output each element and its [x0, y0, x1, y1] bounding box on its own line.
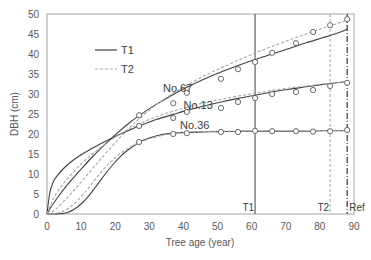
observed-point-no67	[328, 23, 333, 28]
observed-point-no36	[218, 129, 223, 134]
observed-point-no36	[310, 129, 315, 134]
x-tick-label: 70	[280, 221, 292, 232]
observed-point-no67	[310, 29, 315, 34]
axes	[47, 14, 354, 214]
vline-label-ref: Ref	[349, 202, 365, 213]
observed-point-no13	[252, 95, 257, 100]
model-curves	[47, 20, 347, 214]
observed-point-no13	[171, 115, 176, 120]
observed-point-no13	[218, 105, 223, 110]
observed-point-no67	[218, 76, 223, 81]
observed-point-no36	[137, 139, 142, 144]
y-tick-label: 30	[28, 89, 40, 100]
vline-label-t1: T1	[242, 202, 254, 213]
y-tick-label: 25	[28, 109, 40, 120]
observed-point-no36	[252, 128, 257, 133]
x-tick-label: 30	[144, 221, 156, 232]
no-36-t1-curve	[47, 131, 347, 214]
y-tick-label: 35	[28, 69, 40, 80]
observed-point-no13	[328, 83, 333, 88]
observed-point-no13	[345, 80, 350, 85]
observed-point-no36	[345, 127, 350, 132]
observed-markers	[137, 17, 350, 145]
observed-point-no36	[270, 129, 275, 134]
y-tick-label: 20	[28, 129, 40, 140]
y-tick-label: 5	[33, 189, 39, 200]
y-tick-label: 45	[28, 29, 40, 40]
x-tick-label: 20	[110, 221, 122, 232]
observed-point-no13	[310, 87, 315, 92]
x-tick-label: 60	[246, 221, 258, 232]
y-tick-label: 15	[28, 149, 40, 160]
observed-point-no67	[270, 50, 275, 55]
x-axis-title: Tree age (year)	[166, 237, 235, 248]
observed-point-no67	[235, 67, 240, 72]
observed-point-no67	[137, 113, 142, 118]
series-label-no67: No.67	[163, 82, 192, 94]
y-axis-title: DBH (cm)	[9, 92, 20, 136]
observed-point-no67	[252, 59, 257, 64]
y-axis-ticks: 05101520253035404550	[28, 9, 40, 220]
legend-t1-label: T1	[121, 44, 134, 56]
observed-point-no13	[235, 99, 240, 104]
x-tick-label: 0	[44, 221, 50, 232]
observed-point-no13	[293, 89, 298, 94]
growth-chart: 05101520253035404550 0102030405060708090…	[0, 0, 371, 260]
legend: T1 T2	[95, 44, 134, 75]
x-tick-label: 80	[314, 221, 326, 232]
observed-point-no67	[171, 101, 176, 106]
x-tick-label: 50	[212, 221, 224, 232]
x-tick-label: 90	[348, 221, 360, 232]
plot-frame	[47, 14, 354, 214]
observed-point-no36	[171, 131, 176, 136]
y-tick-label: 40	[28, 49, 40, 60]
y-tick-label: 10	[28, 169, 40, 180]
observed-point-no36	[328, 129, 333, 134]
observed-point-no36	[293, 129, 298, 134]
series-labels: No.67No.13No.36	[163, 82, 213, 131]
x-tick-label: 40	[178, 221, 190, 232]
observed-point-no36	[184, 131, 189, 136]
observed-point-no13	[270, 91, 275, 96]
x-axis-ticks: 0102030405060708090	[44, 221, 360, 232]
no-67-t2-curve	[47, 20, 347, 214]
y-tick-label: 50	[28, 9, 40, 20]
y-tick-label: 0	[33, 209, 39, 220]
vline-label-t2: T2	[317, 202, 329, 213]
observed-point-no36	[235, 129, 240, 134]
series-label-no36: No.36	[180, 119, 209, 131]
observed-point-no13	[137, 123, 142, 128]
observed-point-no67	[345, 17, 350, 22]
series-label-no13: No.13	[183, 99, 212, 111]
observed-point-no67	[293, 41, 298, 46]
no-36-t2-curve	[47, 130, 347, 214]
legend-t2-label: T2	[121, 63, 134, 75]
x-tick-label: 10	[76, 221, 88, 232]
